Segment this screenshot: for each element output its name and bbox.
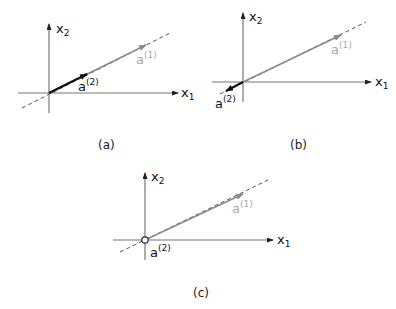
vector-a1 (145, 194, 243, 240)
caption-a: (a) (98, 138, 115, 152)
zero-vector-a2 (142, 237, 148, 243)
x1-axis-label: x1 (277, 232, 290, 249)
x2-axis-label: x2 (249, 9, 262, 26)
vector-a2 (226, 82, 243, 91)
panel-b: x2 x1 a(1) a(2) (b) (212, 9, 388, 152)
caption-c: (c) (193, 286, 209, 300)
a2-label: a(2) (215, 94, 236, 111)
vector-a1 (243, 35, 341, 82)
x2-axis-label: x2 (151, 169, 164, 186)
a2-label: a(2) (78, 77, 99, 94)
panel-a: x2 x1 a(1) a(2) (a) (18, 21, 194, 152)
panel-c: x2 x1 a(1) a(2) (c) (113, 169, 290, 300)
a2-label: a(2) (150, 243, 171, 260)
x1-axis-label: x1 (181, 85, 194, 102)
a1-label: a(1) (331, 40, 352, 57)
x2-axis-label: x2 (56, 21, 69, 38)
vector-diagram-canvas: x2 x1 a(1) a(2) (a) x2 x1 a(1) a(2) (b) … (0, 0, 396, 309)
x1-axis-label: x1 (375, 74, 388, 91)
caption-b: (b) (290, 138, 307, 152)
a1-label: a(1) (232, 199, 253, 216)
a1-label: a(1) (136, 50, 157, 67)
